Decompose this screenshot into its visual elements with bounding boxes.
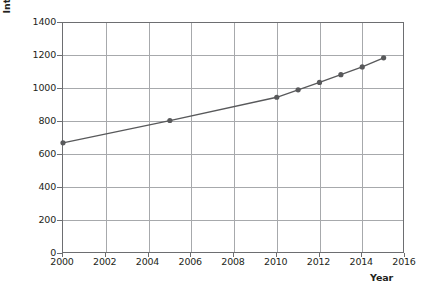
data-point-2010 <box>274 95 279 100</box>
data-series-tourist-arrivals <box>63 23 405 254</box>
x-tick-label-2006: 2006 <box>170 257 210 267</box>
y-tick-label-600: 600 <box>4 149 56 159</box>
x-tick-label-2016: 2016 <box>384 257 424 267</box>
series-markers <box>60 55 386 145</box>
x-tick-label-2000: 2000 <box>42 257 82 267</box>
data-point-2012 <box>317 80 322 85</box>
data-point-2015 <box>381 55 386 60</box>
x-tick-label-2004: 2004 <box>128 257 168 267</box>
y-tick-label-400: 400 <box>4 182 56 192</box>
y-tick-label-1200: 1200 <box>4 50 56 60</box>
data-point-2005 <box>167 118 172 123</box>
y-tick-label-800: 800 <box>4 116 56 126</box>
plot-area <box>62 22 404 253</box>
x-tick-label-2002: 2002 <box>85 257 125 267</box>
x-tick-label-2008: 2008 <box>213 257 253 267</box>
series-line <box>63 58 384 143</box>
y-tick-label-200: 200 <box>4 215 56 225</box>
y-tick-label-1000: 1000 <box>4 83 56 93</box>
data-point-2011 <box>296 87 301 92</box>
x-tick-label-2012: 2012 <box>299 257 339 267</box>
data-point-2014 <box>360 64 365 69</box>
y-tick-label-1400: 1400 <box>4 17 56 27</box>
data-point-2013 <box>338 72 343 77</box>
data-point-2000 <box>60 140 65 145</box>
x-tick-label-2010: 2010 <box>256 257 296 267</box>
y-axis-tick-labels: 0 200 400 600 800 1000 1200 1400 <box>0 0 56 300</box>
chart-container: International tourist arrivals (millions… <box>0 0 435 300</box>
x-axis-title: Year <box>370 272 393 283</box>
page-edge <box>0 296 435 300</box>
x-tick-label-2014: 2014 <box>341 257 381 267</box>
